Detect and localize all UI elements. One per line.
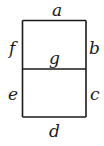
label-g: g (49, 48, 60, 68)
label-e: e (8, 84, 18, 104)
seven-segment-diagram: a b c d e f g (0, 0, 104, 146)
label-f: f (7, 38, 18, 58)
label-b: b (89, 38, 100, 58)
label-d: d (49, 121, 60, 141)
label-a: a (52, 0, 62, 20)
label-c: c (90, 84, 100, 104)
